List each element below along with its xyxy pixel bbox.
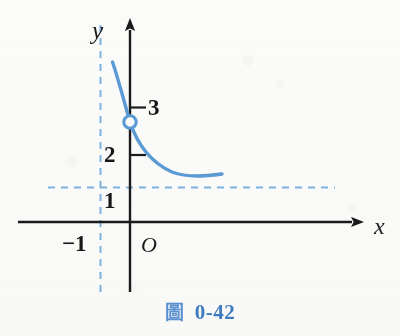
open-circle-hole — [124, 116, 136, 128]
origin-label: O — [141, 234, 157, 256]
chinese-character-tu-figure-icon: 圖 — [165, 303, 184, 322]
y-tick-label-1: 1 — [104, 189, 116, 212]
y-tick-label-3: 3 — [148, 96, 160, 119]
y-axis-label: y — [92, 18, 103, 43]
coordinate-plot — [0, 0, 400, 336]
y-tick-label-2: 2 — [104, 143, 116, 166]
x-tick-label-minus-1: −1 — [62, 232, 87, 255]
figure-caption: 圖 0-42 — [0, 296, 400, 328]
x-axis-label: x — [374, 214, 385, 238]
figure-page: y x O 3 2 1 −1 圖 0-42 — [0, 0, 400, 336]
figure-number: 0-42 — [195, 302, 236, 323]
